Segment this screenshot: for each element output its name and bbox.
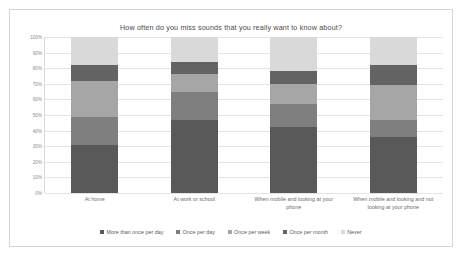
stacked-bar[interactable] (370, 37, 417, 193)
y-axis-tick-label: 100% (30, 35, 42, 40)
legend-label: Never (347, 229, 361, 235)
legend-item[interactable]: Once per week (228, 229, 270, 235)
bar-segment[interactable] (171, 62, 218, 74)
legend-swatch-icon (100, 230, 104, 234)
gridline (45, 193, 443, 194)
x-axis-category-label: When mobile and looking at your phone (248, 196, 340, 211)
legend-swatch-icon (228, 230, 232, 234)
y-axis-tick-label: 60% (33, 97, 42, 102)
legend-swatch-icon (341, 230, 345, 234)
legend-item[interactable]: Once per month (283, 229, 328, 235)
bar-segment[interactable] (370, 120, 417, 137)
bar-segment[interactable] (370, 85, 417, 119)
bar-segment[interactable] (270, 37, 317, 71)
chart-container: How often do you miss sounds that you re… (9, 9, 453, 247)
bar-segment[interactable] (370, 65, 417, 85)
y-axis-tick-label: 30% (33, 144, 42, 149)
y-axis-tick-label: 90% (33, 50, 42, 55)
bar-segment[interactable] (270, 127, 317, 193)
bar-segment[interactable] (71, 65, 118, 81)
y-axis-tick-label: 40% (33, 128, 42, 133)
y-axis-tick-label: 10% (33, 175, 42, 180)
bar-segment[interactable] (71, 81, 118, 117)
legend-label: Once per day (183, 229, 215, 235)
bar-segment[interactable] (270, 104, 317, 127)
bar-segment[interactable] (71, 117, 118, 145)
bar-segment[interactable] (270, 71, 317, 83)
x-axis-category-label: At home (49, 196, 141, 204)
x-axis-category-label: When mobile and looking and not looking … (348, 196, 440, 211)
bar-segment[interactable] (171, 92, 218, 120)
y-axis-tick-label: 70% (33, 81, 42, 86)
y-axis-tick-label: 20% (33, 159, 42, 164)
stacked-bar[interactable] (71, 37, 118, 193)
x-axis-category-label: At work or school (149, 196, 241, 204)
legend-item[interactable]: Never (341, 229, 361, 235)
legend-label: Once per month (289, 229, 328, 235)
legend-label: Once per week (234, 229, 270, 235)
bar-segment[interactable] (370, 37, 417, 65)
legend-item[interactable]: More than once per day (100, 229, 163, 235)
y-axis-tick-label: 0% (35, 191, 42, 196)
bar-segment[interactable] (171, 74, 218, 91)
bar-segment[interactable] (270, 84, 317, 104)
bar-segment[interactable] (370, 137, 417, 193)
plot-area: 100%90%80%70%60%50%40%30%20%10%0% At hom… (45, 37, 443, 193)
stacked-bar[interactable] (270, 37, 317, 193)
y-axis-tick-label: 50% (33, 113, 42, 118)
y-axis-tick-label: 80% (33, 66, 42, 71)
legend-swatch-icon (176, 230, 180, 234)
legend-item[interactable]: Once per day (176, 229, 214, 235)
stacked-bar[interactable] (171, 37, 218, 193)
legend-swatch-icon (283, 230, 287, 234)
bar-segment[interactable] (71, 37, 118, 65)
chart-legend: More than once per dayOnce per dayOnce p… (10, 229, 452, 235)
bar-segment[interactable] (71, 145, 118, 193)
bar-segment[interactable] (171, 37, 218, 62)
chart-title: How often do you miss sounds that you re… (10, 23, 452, 32)
bar-segment[interactable] (171, 120, 218, 193)
legend-label: More than once per day (107, 229, 164, 235)
